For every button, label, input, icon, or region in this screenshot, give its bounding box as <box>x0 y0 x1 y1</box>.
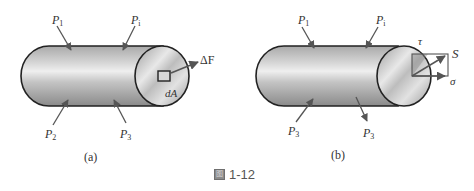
force-label-p3-a: P3 <box>119 127 131 142</box>
force-label-pi-a: Pi <box>130 13 141 28</box>
panel-caption-b: (b) <box>331 148 345 162</box>
force-label-pi-b: Pi <box>375 13 386 28</box>
stress-vector-label: S <box>452 46 459 61</box>
figure-caption: 图 1-12 <box>214 167 255 182</box>
panel-caption-a: (a) <box>84 150 97 164</box>
force-increment-label: ΔF <box>200 53 215 67</box>
figure-number: 1-12 <box>229 167 255 182</box>
figure-canvas: P1 Pi P2 P3 ΔF dA (a) P1 Pi P3 P3 τ S σ … <box>0 0 474 191</box>
normal-stress-label: σ <box>450 75 456 87</box>
force-arrow-p1-b <box>302 27 314 48</box>
shear-stress-label: τ <box>418 35 423 47</box>
force-label-p1-a: P1 <box>51 13 63 28</box>
force-label-p2-a: P2 <box>44 127 56 142</box>
panel-b: P1 Pi P3 P3 τ S σ (b) <box>256 13 459 162</box>
force-label-p1-b: P1 <box>297 13 309 28</box>
force-label-p3-left-b: P3 <box>287 124 299 139</box>
area-label: dA <box>165 87 178 99</box>
force-arrow-pi-b <box>366 27 378 48</box>
area-element-dA <box>158 71 170 81</box>
panel-a: P1 Pi P2 P3 ΔF dA (a) <box>21 13 215 164</box>
figure-icon: 图 <box>214 169 225 180</box>
force-label-p3-right-b: P3 <box>362 126 374 141</box>
